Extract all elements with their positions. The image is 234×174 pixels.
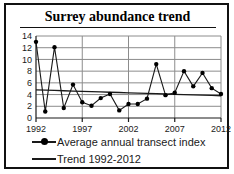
svg-text:10: 10 <box>22 55 32 65</box>
legend-label-average-annual-transect-index: Average annual transect index <box>56 136 205 148</box>
svg-text:14: 14 <box>22 31 32 41</box>
svg-text:6: 6 <box>27 78 32 88</box>
legend-label-trend: Trend 1992-2012 <box>56 153 141 165</box>
svg-text:8: 8 <box>27 66 32 76</box>
svg-text:4: 4 <box>27 90 32 100</box>
y-axis-tick-labels: 02468101214 <box>22 31 32 123</box>
svg-text:12: 12 <box>22 43 32 53</box>
svg-text:2012: 2012 <box>211 124 231 134</box>
svg-text:2: 2 <box>27 101 32 111</box>
figure-frame: Surrey abundance trend 02468101214 19921… <box>4 3 229 169</box>
legend: Average annual transect index Trend 1992… <box>32 133 212 167</box>
line-with-dot-marker-icon <box>32 136 56 148</box>
line-marker-icon <box>32 153 56 165</box>
svg-text:0: 0 <box>27 113 32 123</box>
legend-item-average-annual-transect-index: Average annual transect index <box>32 133 212 150</box>
legend-item-trend: Trend 1992-2012 <box>32 150 212 167</box>
